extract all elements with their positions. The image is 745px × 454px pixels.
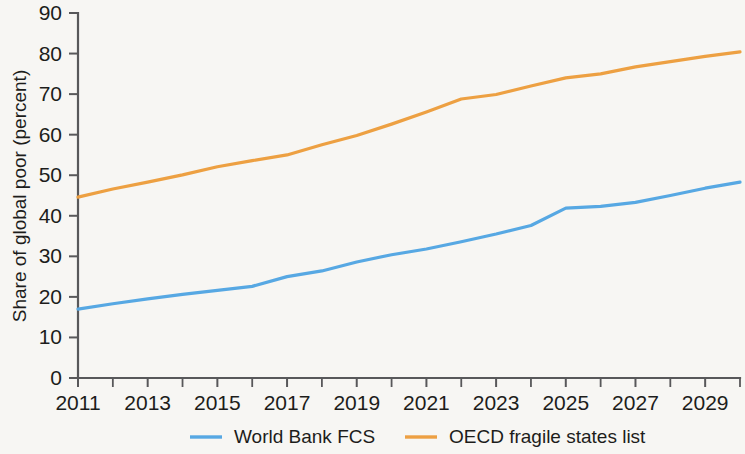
y-tick-label: 60	[39, 123, 62, 146]
y-axis-tick-labels: 0102030405060708090	[39, 1, 62, 389]
legend-label-1: OECD fragile states list	[449, 426, 646, 447]
y-axis-group: 0102030405060708090 Share of global poor…	[9, 1, 78, 389]
y-tick-label: 0	[50, 366, 62, 389]
y-tick-label: 70	[39, 82, 62, 105]
y-axis-title: Share of global poor (percent)	[9, 70, 30, 322]
chart-legend: World Bank FCSOECD fragile states list	[190, 426, 646, 447]
line-chart: 0102030405060708090 Share of global poor…	[0, 0, 745, 454]
x-axis-tick-labels: 2011201320152017201920212023202520272029	[55, 391, 728, 414]
x-tick-label: 2027	[612, 391, 659, 414]
x-axis-group: 2011201320152017201920212023202520272029	[55, 378, 740, 414]
x-tick-label: 2029	[682, 391, 729, 414]
y-tick-label: 90	[39, 1, 62, 24]
x-tick-label: 2025	[542, 391, 589, 414]
y-tick-label: 80	[39, 42, 62, 65]
y-tick-label: 40	[39, 204, 62, 227]
y-tick-label: 50	[39, 163, 62, 186]
x-tick-label: 2023	[473, 391, 520, 414]
x-tick-label: 2017	[264, 391, 311, 414]
x-tick-label: 2013	[124, 391, 171, 414]
legend-label-0: World Bank FCS	[234, 426, 375, 447]
x-tick-label: 2019	[333, 391, 380, 414]
series-line-world-bank-fcs	[78, 182, 740, 309]
chart-container: 0102030405060708090 Share of global poor…	[0, 0, 745, 454]
series-line-oecd-fragile-states	[78, 52, 740, 197]
x-tick-label: 2015	[194, 391, 241, 414]
series-lines	[78, 52, 740, 309]
y-axis-ticks	[69, 13, 78, 378]
x-axis-ticks	[78, 378, 740, 387]
y-tick-label: 20	[39, 285, 62, 308]
y-tick-label: 30	[39, 244, 62, 267]
x-tick-label: 2021	[403, 391, 450, 414]
x-tick-label: 2011	[55, 391, 100, 414]
y-tick-label: 10	[39, 325, 62, 348]
